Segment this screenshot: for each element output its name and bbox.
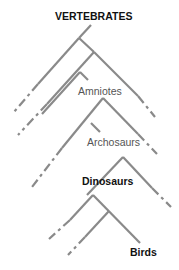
cladogram-tree — [0, 0, 179, 270]
clade-label-amniotes: Amniotes — [78, 85, 122, 97]
clade-label-birds: Birds — [130, 246, 157, 258]
branch-root-left — [38, 38, 79, 84]
clade-label-archosaurs: Archosaurs — [87, 136, 140, 148]
clade-label-dinosaurs: Dinosaurs — [82, 175, 133, 187]
